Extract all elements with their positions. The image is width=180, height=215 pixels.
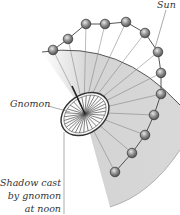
shadow-label-line1: Shadow cast xyxy=(0,176,61,189)
sun-icon xyxy=(153,47,163,57)
gnomon-label: Gnomon xyxy=(10,97,50,110)
sun-leader xyxy=(155,10,166,48)
sun-icon xyxy=(110,167,120,177)
sun-label: Sun xyxy=(157,0,176,11)
sun-icon xyxy=(81,19,91,29)
sun-icon xyxy=(140,130,150,140)
sun-icon xyxy=(63,34,73,44)
shadow-label: Shadow cast by gnomon at noon xyxy=(0,176,61,215)
sun-icon xyxy=(156,89,166,99)
sun-icon xyxy=(100,19,110,29)
shadow-label-line2: by gnomon xyxy=(0,189,61,202)
shadow-label-line3: at noon xyxy=(0,202,61,215)
sun-icon xyxy=(156,68,166,78)
sun-icon xyxy=(127,148,137,158)
sun-icon xyxy=(48,45,58,55)
sun-icon xyxy=(140,28,150,38)
sun-icon xyxy=(121,17,131,27)
sun-icon xyxy=(149,110,159,120)
